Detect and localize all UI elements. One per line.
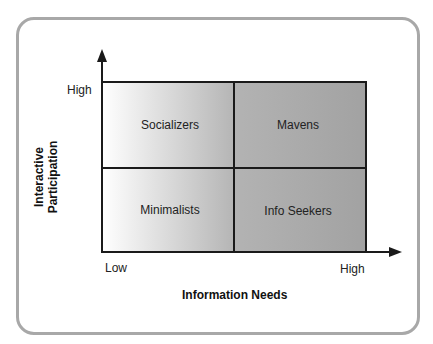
y-axis-title-line1: Interactive (32, 141, 46, 214)
quadrant-socializers: Socializers (141, 118, 199, 132)
x-axis-low-label: Low (105, 261, 127, 275)
quadrant-mavens: Mavens (277, 118, 319, 132)
y-axis-title-line2: Participation (46, 141, 60, 214)
y-axis-high-label: High (67, 83, 92, 97)
x-axis-arrow-icon (389, 247, 402, 257)
y-axis-arrow-icon (97, 49, 107, 62)
quadrant-info-seekers: Info Seekers (264, 204, 331, 218)
quadrant-minimalists: Minimalists (140, 203, 199, 217)
y-axis-title: Interactive Participation (32, 141, 60, 214)
x-axis-title: Information Needs (182, 288, 287, 302)
x-axis-high-label: High (340, 262, 365, 276)
